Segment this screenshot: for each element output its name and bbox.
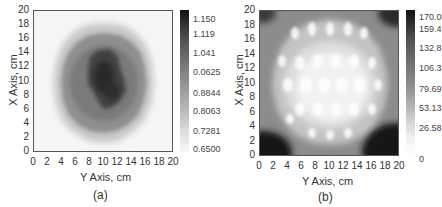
y-tick: 4 (241, 121, 255, 131)
colorbar-label: 79.69 (419, 85, 442, 94)
y-tick: 14 (241, 49, 255, 59)
y-tick: 18 (15, 19, 29, 29)
y-tick: 10 (241, 78, 255, 88)
colorbar-label: 1.150 (193, 15, 216, 24)
x-tick: 20 (165, 157, 181, 167)
y-tick: 8 (15, 90, 29, 100)
panel-b-colorbar (406, 10, 415, 156)
colorbar-label: 0 (419, 155, 424, 164)
y-tick: 20 (15, 5, 29, 15)
y-tick: 14 (15, 47, 29, 57)
colorbar-label: 1.119 (193, 30, 215, 39)
y-tick: 4 (15, 118, 29, 128)
y-tick: 18 (241, 20, 255, 30)
y-tick: 2 (15, 132, 29, 142)
y-tick: 2 (241, 136, 255, 146)
panel-a-colorbar (180, 10, 189, 152)
y-tick: 16 (241, 34, 255, 44)
colorbar-label: 159.4 (419, 25, 442, 34)
colorbar-label: 0.6500 (193, 145, 221, 154)
y-tick: 6 (241, 107, 255, 117)
y-tick: 8 (241, 92, 255, 102)
y-tick: 12 (15, 61, 29, 71)
x-tick: 20 (391, 161, 407, 171)
panel-b-x-axis-label: Y Axis, cm (302, 175, 353, 187)
colorbar-label: 26.58 (419, 124, 442, 133)
colorbar-label: 0.7281 (193, 127, 221, 136)
y-tick: 0 (15, 146, 29, 156)
colorbar-label: 106.3 (419, 64, 442, 73)
y-tick: 16 (15, 33, 29, 43)
panel-a-x-axis-label: Y Axis, cm (80, 171, 131, 183)
y-tick: 6 (15, 104, 29, 114)
y-tick: 10 (15, 76, 29, 86)
y-tick: 12 (241, 63, 255, 73)
colorbar-label: 170.0 (419, 13, 442, 22)
colorbar-label: 132.8 (419, 44, 442, 53)
panel-a-heatmap (33, 10, 173, 152)
panel-a-caption: (a) (93, 188, 108, 202)
colorbar-label: 0.8063 (193, 107, 221, 116)
panel-b-heatmap-graphic (260, 11, 399, 156)
y-tick: 20 (241, 5, 255, 15)
panel-b-heatmap (259, 10, 399, 156)
panel-a-heatmap-graphic (34, 11, 173, 152)
colorbar-label: 0.0625 (193, 68, 221, 77)
colorbar-label: 1.041 (193, 49, 216, 58)
y-tick: 0 (241, 150, 255, 160)
colorbar-label: 0.8844 (193, 89, 221, 98)
colorbar-label: 53.13 (419, 104, 442, 113)
panel-b-caption: (b) (318, 190, 333, 204)
